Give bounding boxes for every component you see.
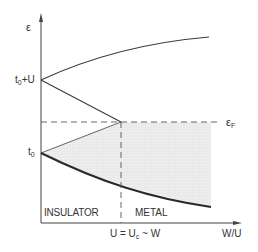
- x-axis-arrow-icon: [233, 221, 242, 225]
- level-bottom-label: t0: [28, 147, 35, 158]
- critical-u-label: U = Uc ~ W: [110, 229, 160, 240]
- metal-label: METAL: [135, 208, 168, 218]
- insulator-label: INSULATOR: [44, 208, 99, 218]
- band-diagram: [0, 0, 258, 252]
- upper-hubbard-lower-edge: [41, 80, 121, 122]
- upper-band-edge-curve: [41, 37, 209, 80]
- y-axis-arrow-icon: [39, 13, 43, 22]
- y-axis-label: ε: [26, 22, 31, 33]
- level-top-label: t0+U: [15, 75, 35, 86]
- fermi-label: εF: [226, 117, 235, 129]
- x-axis-label: W/U: [222, 229, 241, 239]
